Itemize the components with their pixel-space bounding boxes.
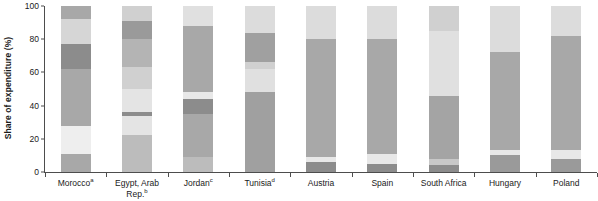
x-axis-label: Egypt, ArabRep.b bbox=[106, 178, 167, 199]
bar-group[interactable] bbox=[183, 6, 213, 172]
bar-segment[interactable] bbox=[183, 157, 213, 172]
bar-segment[interactable] bbox=[122, 39, 152, 67]
x-tick-mark bbox=[474, 173, 475, 177]
y-tick-label-100: 100 bbox=[25, 1, 39, 11]
bar-segment[interactable] bbox=[306, 6, 336, 39]
bar-segment[interactable] bbox=[429, 165, 459, 172]
bar-segment[interactable] bbox=[183, 92, 213, 99]
y-axis: 020406080100 bbox=[16, 0, 44, 180]
y-axis-title: Share of expenditure (%) bbox=[0, 0, 16, 175]
x-axis-label: South Africa bbox=[413, 178, 474, 189]
bar-segment[interactable] bbox=[245, 6, 275, 33]
x-tick-mark bbox=[45, 173, 46, 177]
x-tick-mark bbox=[106, 173, 107, 177]
x-tick-mark bbox=[536, 173, 537, 177]
bar-group[interactable] bbox=[122, 6, 152, 172]
y-tick-label-60: 60 bbox=[30, 67, 39, 77]
bar-segment[interactable] bbox=[551, 36, 581, 151]
bar-segment[interactable] bbox=[122, 116, 152, 136]
bar-segment[interactable] bbox=[551, 150, 581, 158]
bar-segment[interactable] bbox=[245, 62, 275, 69]
plot-area bbox=[45, 6, 597, 172]
stacked-bar[interactable] bbox=[551, 6, 581, 172]
bar-segment[interactable] bbox=[183, 99, 213, 114]
bar-segment[interactable] bbox=[245, 33, 275, 63]
bar-group[interactable] bbox=[551, 6, 581, 172]
bar-segment[interactable] bbox=[183, 6, 213, 26]
bar-segment[interactable] bbox=[367, 39, 397, 154]
y-tick-label-40: 40 bbox=[30, 101, 39, 111]
bar-segment[interactable] bbox=[183, 114, 213, 157]
x-axis-label: Tunisiad bbox=[229, 178, 290, 189]
x-tick-mark bbox=[229, 173, 230, 177]
x-axis-label: Jordanc bbox=[168, 178, 229, 189]
bar-segment[interactable] bbox=[490, 155, 520, 172]
bar-segment[interactable] bbox=[61, 19, 91, 44]
bar-segment[interactable] bbox=[429, 31, 459, 96]
stacked-bar[interactable] bbox=[367, 6, 397, 172]
bar-segment[interactable] bbox=[551, 6, 581, 36]
x-tick-mark bbox=[168, 173, 169, 177]
bar-group[interactable] bbox=[490, 6, 520, 172]
bar-segment[interactable] bbox=[122, 89, 152, 112]
bar-segment[interactable] bbox=[245, 92, 275, 172]
bar-segment[interactable] bbox=[122, 112, 152, 115]
bar-segment[interactable] bbox=[61, 44, 91, 69]
x-tick-mark bbox=[413, 173, 414, 177]
bar-group[interactable] bbox=[429, 6, 459, 172]
bar-segment[interactable] bbox=[367, 154, 397, 164]
bar-segment[interactable] bbox=[61, 154, 91, 172]
x-tick-mark bbox=[290, 173, 291, 177]
bar-segment[interactable] bbox=[306, 162, 336, 172]
x-axis-label: Hungary bbox=[474, 178, 535, 189]
bar-segment[interactable] bbox=[61, 69, 91, 125]
bar-segment[interactable] bbox=[551, 159, 581, 172]
bar-group[interactable] bbox=[367, 6, 397, 172]
x-tick-mark bbox=[352, 173, 353, 177]
bar-segment[interactable] bbox=[306, 157, 336, 162]
bar-group[interactable] bbox=[306, 6, 336, 172]
x-axis-line bbox=[44, 172, 597, 173]
x-axis-label: Poland bbox=[536, 178, 597, 189]
stacked-bar[interactable] bbox=[122, 6, 152, 172]
stacked-bar[interactable] bbox=[306, 6, 336, 172]
stacked-bar[interactable] bbox=[183, 6, 213, 172]
y-tick-label-80: 80 bbox=[30, 34, 39, 44]
bar-group[interactable] bbox=[245, 6, 275, 172]
stacked-bar-chart: Share of expenditure (%) 020406080100 Mo… bbox=[0, 0, 598, 201]
bar-segment[interactable] bbox=[429, 96, 459, 159]
stacked-bar[interactable] bbox=[61, 6, 91, 172]
bar-segment[interactable] bbox=[429, 6, 459, 31]
bar-segment[interactable] bbox=[367, 6, 397, 39]
bar-segment[interactable] bbox=[61, 126, 91, 154]
bar-segment[interactable] bbox=[61, 6, 91, 19]
bar-segment[interactable] bbox=[245, 69, 275, 92]
bar-segment[interactable] bbox=[306, 39, 336, 157]
y-axis-title-text: Share of expenditure (%) bbox=[3, 36, 13, 139]
bar-segment[interactable] bbox=[367, 164, 397, 172]
bar-segment[interactable] bbox=[122, 6, 152, 21]
bar-segment[interactable] bbox=[490, 6, 520, 52]
x-axis-label: Austria bbox=[290, 178, 351, 189]
x-axis-label: Spain bbox=[352, 178, 413, 189]
x-axis-label: Moroccoa bbox=[45, 178, 106, 189]
bar-group[interactable] bbox=[61, 6, 91, 172]
bar-segment[interactable] bbox=[490, 150, 520, 155]
bar-segment[interactable] bbox=[429, 159, 459, 166]
y-tick-label-0: 0 bbox=[34, 167, 39, 177]
stacked-bar[interactable] bbox=[490, 6, 520, 172]
bar-segment[interactable] bbox=[490, 52, 520, 150]
bar-segment[interactable] bbox=[122, 67, 152, 89]
bar-segment[interactable] bbox=[122, 21, 152, 39]
stacked-bar[interactable] bbox=[245, 6, 275, 172]
bar-segment[interactable] bbox=[183, 26, 213, 92]
y-tick-label-20: 20 bbox=[30, 134, 39, 144]
stacked-bar[interactable] bbox=[429, 6, 459, 172]
bar-segment[interactable] bbox=[122, 135, 152, 172]
